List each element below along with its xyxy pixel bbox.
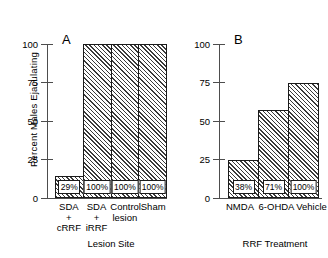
panel-a-bars: 29% 100% 100% 100% bbox=[55, 44, 167, 198]
panel-a-x-axis-title: Lesion Site bbox=[55, 238, 167, 249]
panel-a-tick-100 bbox=[41, 44, 53, 45]
bar-6-ohda[interactable]: 71% bbox=[258, 110, 289, 198]
bar-value-label: 100% bbox=[112, 180, 139, 194]
bar-value-label: 100% bbox=[139, 180, 166, 194]
category-line3: cRRF bbox=[55, 223, 83, 234]
panel-b-x-axis bbox=[219, 198, 322, 199]
bar-control-lesion[interactable]: 100% bbox=[111, 44, 140, 198]
category-control-lesion: Control lesion bbox=[110, 202, 139, 234]
panel-b-x-axis-title: RRF Treatment bbox=[222, 238, 328, 249]
panel-a-plot-area: 29% 100% 100% 100% bbox=[55, 44, 167, 198]
bar-sda-irrf[interactable]: 100% bbox=[83, 44, 112, 198]
panel-b-ticklabel-0: 0 bbox=[180, 193, 210, 204]
category-vehicle: Vehicle bbox=[295, 202, 328, 213]
category-line1: 6-OHDA bbox=[259, 201, 295, 212]
panel-a-ticklabel-25: 25 bbox=[8, 154, 38, 165]
category-sham: Sham bbox=[139, 202, 167, 234]
bar-value-label: 100% bbox=[84, 180, 111, 194]
category-sda-irrf: SDA + iRRF bbox=[83, 202, 111, 234]
category-line1: SDA bbox=[59, 201, 79, 212]
panel-a-ticklabel-100: 100 bbox=[8, 39, 38, 50]
panel-b-tick-50 bbox=[213, 121, 225, 122]
category-line1: Vehicle bbox=[296, 201, 327, 212]
panel-a-tick-75 bbox=[41, 82, 53, 83]
panel-b-tick-75 bbox=[213, 82, 225, 83]
panel-b-plot-area: 38% 71% 100% bbox=[228, 44, 322, 198]
category-line2: lesion bbox=[110, 213, 139, 224]
panel-b-ticklabel-50: 50 bbox=[180, 116, 210, 127]
category-line3: iRRF bbox=[83, 223, 111, 234]
panel-b-ticklabel-25: 25 bbox=[180, 154, 210, 165]
panel-a-tick-25 bbox=[41, 159, 53, 160]
bar-value-label: 38% bbox=[232, 180, 254, 194]
bar-vehicle[interactable]: 100% bbox=[288, 83, 319, 199]
bar-sda-crrf[interactable]: 29% bbox=[55, 176, 84, 198]
panel-b-category-labels: NMDA 6-OHDA Vehicle bbox=[222, 202, 328, 213]
bar-nmda[interactable]: 38% bbox=[228, 160, 259, 199]
category-line1: NMDA bbox=[226, 201, 254, 212]
panel-b-tick-100 bbox=[213, 44, 225, 45]
panel-a: A 100 75 50 25 0 29% 100% 100% bbox=[0, 0, 176, 258]
category-sda-crrf: SDA + cRRF bbox=[55, 202, 83, 234]
panel-a-category-labels: SDA + cRRF SDA + iRRF Control lesion Sha… bbox=[55, 202, 167, 234]
panel-a-ticklabel-50: 50 bbox=[8, 116, 38, 127]
panel-b-bars: 38% 71% 100% bbox=[228, 44, 322, 198]
panel-b-ticklabel-75: 75 bbox=[180, 77, 210, 88]
category-line1: Control bbox=[110, 201, 141, 212]
category-nmda: NMDA bbox=[222, 202, 258, 213]
bar-value-label: 71% bbox=[262, 180, 284, 194]
category-line1: Sham bbox=[141, 201, 166, 212]
bar-sham[interactable]: 100% bbox=[138, 44, 167, 198]
panel-a-ticklabel-75: 75 bbox=[8, 77, 38, 88]
bar-value-label: 29% bbox=[58, 180, 80, 194]
panel-a-tick-50 bbox=[41, 121, 53, 122]
panel-b: B 100 75 50 25 0 38% 71% 100% bbox=[176, 0, 325, 258]
panel-a-ticklabel-0: 0 bbox=[8, 193, 38, 204]
panel-b-tick-25 bbox=[213, 159, 225, 160]
bar-value-label: 100% bbox=[290, 180, 317, 194]
category-line1: SDA bbox=[87, 201, 107, 212]
panel-a-x-axis bbox=[47, 198, 167, 199]
category-6-ohda: 6-OHDA bbox=[258, 202, 295, 213]
panel-b-ticklabel-100: 100 bbox=[180, 39, 210, 50]
